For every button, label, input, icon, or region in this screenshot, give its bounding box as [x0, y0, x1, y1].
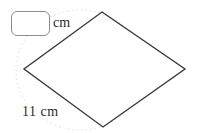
side-length-label: 11 cm — [22, 104, 59, 120]
unit-label-cm: cm — [53, 15, 70, 31]
diagram-canvas: cm 11 cm — [0, 0, 198, 133]
answer-input[interactable] — [11, 11, 50, 36]
